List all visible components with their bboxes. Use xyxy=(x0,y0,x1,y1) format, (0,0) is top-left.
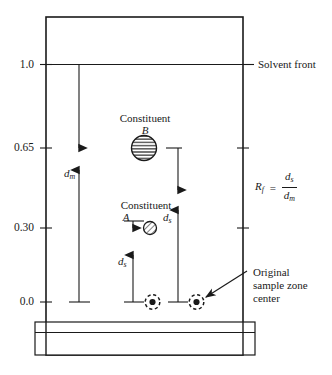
rf-formula-denominator: dm xyxy=(282,189,297,205)
rf-formula-fraction: ds dm xyxy=(282,170,297,206)
rf-formula: Rf = ds dm xyxy=(255,170,297,206)
origin-spot-a xyxy=(145,295,160,310)
ds-b-label: ds xyxy=(163,211,172,227)
constituent-b-spot xyxy=(132,136,157,161)
rf-formula-lhs-sub: f xyxy=(262,185,264,194)
dm-label: dm xyxy=(64,167,75,183)
axis-tick-label-3: 0.30 xyxy=(0,221,34,234)
rf-formula-equals: = xyxy=(267,182,279,195)
solvent-front-label: Solvent front xyxy=(258,58,316,71)
rf-formula-bar xyxy=(282,187,297,188)
rf-den-sub: m xyxy=(289,194,295,203)
ds-a-label-sub: s xyxy=(124,260,127,269)
origin-note-line2: sample zone xyxy=(253,279,327,292)
dm-label-sub: m xyxy=(70,172,76,181)
origin-spot-b xyxy=(189,295,204,310)
constituent-b-label-line1: Constituent xyxy=(97,112,193,125)
origin-note-line3: center xyxy=(253,292,327,305)
ds-b-label-sub: s xyxy=(169,216,172,225)
axis-tick-label-1: 1.0 xyxy=(0,58,34,71)
rf-formula-lhs: R xyxy=(255,180,262,192)
origin-note-leader-arrow xyxy=(206,271,247,297)
solvent-reservoir xyxy=(35,322,255,355)
origin-note: Original sample zone center xyxy=(253,266,327,305)
tlc-figure: 1.0 0.65 0.30 0.0 Solvent front Constitu… xyxy=(0,0,332,375)
plate-outline xyxy=(46,17,243,355)
ds-a-label: ds xyxy=(118,255,127,271)
constituent-b-label-line2: B xyxy=(97,124,193,137)
constituent-a-label-line2: A xyxy=(98,211,154,224)
axis-tick-label-2: 0.65 xyxy=(0,141,34,154)
ds-a-measure-arrow xyxy=(124,221,144,302)
origin-note-line1: Original xyxy=(253,266,327,279)
constituent-a-label-line1: Constituent xyxy=(98,199,194,212)
rf-num-sub: s xyxy=(290,175,293,184)
rf-formula-numerator: ds xyxy=(282,170,297,186)
axis-tick-label-4: 0.0 xyxy=(0,295,34,308)
